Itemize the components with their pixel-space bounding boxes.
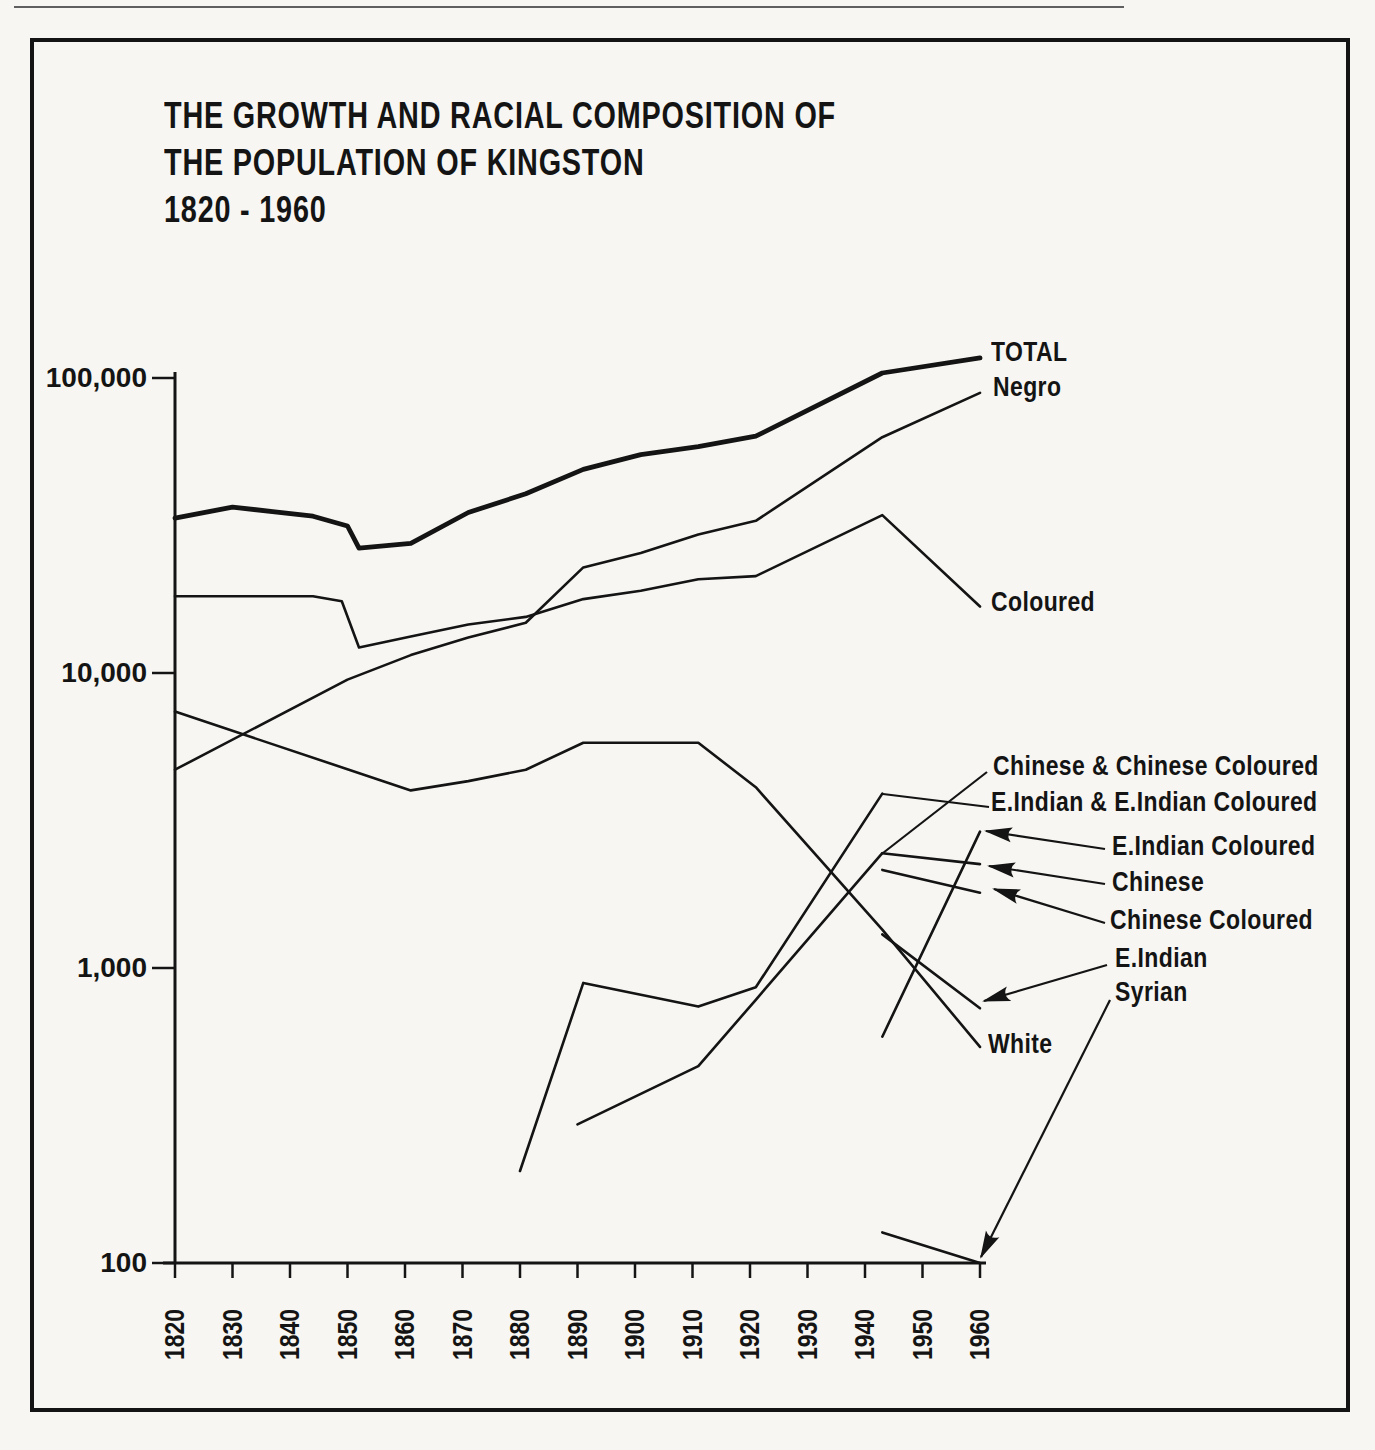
series-line-chinese	[882, 853, 980, 864]
series-label-eindian: E.Indian	[1115, 942, 1208, 974]
x-tick-label: 1910	[676, 1309, 707, 1360]
series-label-chinese-coloured: Chinese Coloured	[1110, 904, 1313, 936]
arrow-chinese-coloured	[994, 889, 1105, 923]
x-tick-label: 1870	[446, 1309, 477, 1360]
series-label-negro: Negro	[993, 371, 1061, 403]
series-line-chin_comb	[578, 853, 883, 1124]
series-label-white: White	[988, 1028, 1053, 1060]
scanned-chart-page: THE GROWTH AND RACIAL COMPOSITION OF THE…	[0, 0, 1375, 1450]
arrow-eindian	[984, 965, 1107, 1001]
series-line-eind_comb	[520, 794, 882, 1171]
x-tick-label: 1900	[619, 1309, 650, 1360]
y-tick-label: 10,000	[61, 657, 147, 688]
x-tick-label: 1830	[216, 1309, 247, 1360]
series-label-total: TOTAL	[991, 336, 1067, 368]
x-tick-label: 1820	[159, 1309, 190, 1360]
axes: 1001,00010,000100,0001820183018401850186…	[46, 362, 995, 1360]
series-label-syrian: Syrian	[1115, 976, 1188, 1008]
label-leader-lines	[883, 772, 1110, 1257]
series-label-coloured: Coloured	[991, 586, 1095, 618]
series-line-chin_col	[882, 870, 980, 893]
x-tick-label: 1920	[734, 1309, 765, 1360]
x-tick-label: 1850	[331, 1309, 362, 1360]
series-label-eindian-coloured: E.Indian Coloured	[1112, 830, 1315, 862]
series-lines	[175, 358, 980, 1263]
arrow-eindian-coloured	[986, 831, 1105, 849]
arrow-chinese	[989, 866, 1105, 884]
series-line-coloured	[175, 515, 980, 647]
x-tick-label: 1860	[389, 1309, 420, 1360]
x-tick-label: 1930	[791, 1309, 822, 1360]
series-label-eindian-and-eindian-coloured: E.Indian & E.Indian Coloured	[991, 786, 1318, 818]
y-tick-label: 100,000	[46, 362, 147, 393]
x-tick-label: 1950	[906, 1309, 937, 1360]
series-label-chinese-and-chinese-coloured: Chinese & Chinese Coloured	[993, 750, 1319, 782]
x-tick-label: 1890	[561, 1309, 592, 1360]
population-line-chart: 1001,00010,000100,0001820183018401850186…	[0, 0, 1375, 1450]
series-label-chinese: Chinese	[1112, 866, 1204, 898]
x-tick-label: 1880	[504, 1309, 535, 1360]
x-tick-label: 1960	[964, 1309, 995, 1360]
series-line-negro	[175, 393, 980, 770]
y-tick-label: 100	[100, 1247, 147, 1278]
series-line-eind	[882, 934, 980, 1008]
x-tick-label: 1840	[274, 1309, 305, 1360]
series-line-syrian	[882, 1232, 980, 1263]
leader-eindian-and-eindian-coloured	[883, 794, 989, 807]
y-tick-label: 1,000	[77, 952, 147, 983]
x-tick-label: 1940	[849, 1309, 880, 1360]
leader-chinese-and-chinese-coloured	[883, 772, 987, 853]
